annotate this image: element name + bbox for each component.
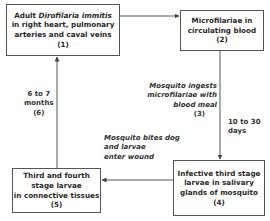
step-6-duration-label: 6 to 7 months (6) (24, 90, 54, 118)
stage-4-line-3: glands of mosquito (174, 188, 264, 198)
duration-10-30-days-label: 10 to 30 days (228, 118, 261, 137)
stage-4-line-1: Infective third stage (174, 169, 264, 179)
stage-1-line-2: in right heart, pulmonary (7, 20, 119, 30)
stage-2-number: (2) (181, 35, 263, 45)
stage-1-line-3: arteries and caval veins (7, 30, 119, 40)
stage-2-microfilariae: Microfilariae in circulating blood (2) (180, 10, 264, 51)
stage-5-tissue-larvae: Third and fourth stage larvae in connect… (12, 168, 101, 213)
stage-4-number: (4) (174, 198, 264, 208)
stage-2-line-2: circulating blood (181, 26, 263, 36)
stage-5-line-3: in connective tissues (13, 191, 100, 201)
stage-2-line-1: Microfilariae in (181, 16, 263, 26)
stage-1-species-name: Dirofilaria immitis (38, 11, 111, 20)
stage-5-line-2: stage larvae (13, 181, 100, 191)
stage-4-line-2: larvae in salivary (174, 178, 264, 188)
stage-5-number: (5) (13, 200, 100, 210)
stage-4-infective-larvae: Infective third stage larvae in salivary… (173, 160, 265, 216)
stage-1-line-1a: Adult (14, 11, 38, 20)
step-3-label: Mosquito ingests microfilariae with bloo… (147, 82, 217, 120)
stage-1-adult-worms: Adult Dirofilaria immitis in right heart… (6, 4, 120, 56)
stage-5-line-1: Third and fourth (13, 171, 100, 181)
mosquito-bite-label: Mosquito bites dog and larvae enter woun… (104, 134, 180, 162)
stage-1-number: (1) (7, 40, 119, 50)
